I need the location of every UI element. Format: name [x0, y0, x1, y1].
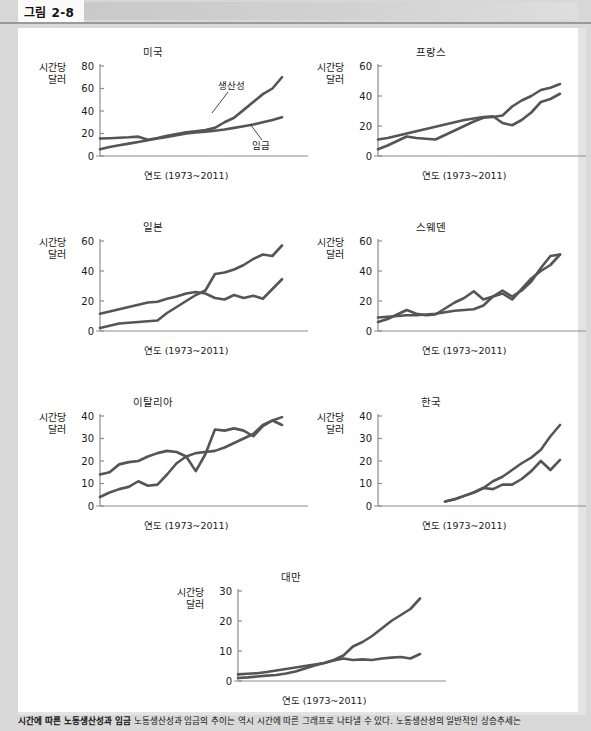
x-axis-label: 연도 (1973~2011) — [80, 343, 292, 357]
y-tick-label: 0 — [366, 151, 372, 162]
y-tick-label: 0 — [366, 326, 372, 337]
y-tick-label: 60 — [81, 83, 94, 94]
x-axis-label: 연도 (1973~2011) — [358, 168, 570, 182]
chart-3: 스웨덴시간당달러0204060연도 (1973~2011) — [300, 219, 562, 367]
series-tag-wage: 임금 — [252, 138, 270, 152]
y-tick-label: 0 — [366, 501, 372, 512]
series-line — [100, 421, 282, 475]
series-line — [378, 255, 560, 323]
y-tick-label: 40 — [359, 91, 372, 102]
y-tick-label: 40 — [81, 266, 94, 277]
plot-area: 0204060 — [100, 241, 312, 337]
plot-area: 010203040 — [378, 416, 590, 512]
x-axis-label: 연도 (1973~2011) — [218, 693, 430, 707]
y-axis-title: 시간당달러 — [22, 62, 66, 85]
y-tick-label: 10 — [359, 478, 372, 489]
series-line — [100, 417, 282, 497]
x-axis-label: 연도 (1973~2011) — [358, 518, 570, 532]
y-axis-title-line1: 시간당 — [160, 587, 204, 599]
x-axis-label: 연도 (1973~2011) — [80, 518, 292, 532]
y-axis-title-line2: 달러 — [300, 424, 344, 436]
chart-0: 미국시간당달러020406080연도 (1973~2011)생산성임금 — [22, 44, 284, 192]
y-axis-title: 시간당달러 — [300, 62, 344, 85]
y-axis-title-line1: 시간당 — [22, 62, 66, 74]
series-line — [378, 94, 560, 140]
y-tick-label: 20 — [81, 456, 94, 467]
y-axis-title-line2: 달러 — [300, 249, 344, 261]
chart-title: 일본 — [22, 219, 284, 234]
caption-heading: 시간에 따른 노동생산성과 임금 — [18, 716, 131, 726]
header-divider — [0, 22, 591, 24]
series-line — [238, 654, 420, 674]
y-tick-label: 60 — [81, 236, 94, 247]
caption-body: 노동생산성과 임금의 추이는 역시 시간에 따른 그래프로 나타낼 수 있다. … — [131, 716, 521, 726]
y-tick-label: 20 — [81, 296, 94, 307]
series-line — [378, 84, 560, 149]
y-tick-label: 60 — [359, 236, 372, 247]
y-tick-label: 40 — [81, 411, 94, 422]
y-tick-label: 30 — [359, 433, 372, 444]
y-axis-title-line1: 시간당 — [300, 237, 344, 249]
y-tick-label: 0 — [88, 326, 94, 337]
y-tick-label: 30 — [219, 586, 232, 597]
plot-area: 0204060 — [378, 66, 590, 162]
y-tick-label: 20 — [81, 128, 94, 139]
y-axis-title-line2: 달러 — [300, 74, 344, 86]
header-gradient-bar — [84, 2, 578, 20]
chart-title: 이탈리아 — [22, 394, 284, 409]
plot-area: 020406080 — [100, 66, 312, 162]
y-tick-label: 20 — [359, 296, 372, 307]
y-tick-label: 10 — [219, 646, 232, 657]
chart-title: 대만 — [160, 569, 422, 584]
plot-area: 0204060 — [378, 241, 590, 337]
y-axis-title-line1: 시간당 — [22, 412, 66, 424]
series-line — [238, 599, 420, 679]
annotation-leader-line — [212, 92, 228, 113]
y-tick-label: 0 — [88, 501, 94, 512]
figure-label: 그림 2-8 — [24, 3, 74, 20]
y-axis-title: 시간당달러 — [300, 237, 344, 260]
y-tick-label: 0 — [226, 676, 232, 687]
y-axis-title: 시간당달러 — [300, 412, 344, 435]
y-tick-label: 10 — [81, 478, 94, 489]
series-line — [100, 246, 282, 329]
x-axis-label: 연도 (1973~2011) — [80, 168, 292, 182]
x-axis-label: 연도 (1973~2011) — [358, 343, 570, 357]
chart-title: 한국 — [300, 394, 562, 409]
figure-page: 그림 2-8 미국시간당달러020406080연도 (1973~2011)생산성… — [0, 0, 591, 731]
chart-6: 대만시간당달러0102030연도 (1973~2011) — [160, 569, 422, 717]
y-tick-label: 40 — [81, 106, 94, 117]
y-tick-label: 40 — [359, 266, 372, 277]
series-line — [378, 255, 560, 318]
y-axis-title-line2: 달러 — [22, 74, 66, 86]
chart-5: 한국시간당달러010203040연도 (1973~2011) — [300, 394, 562, 542]
series-line — [445, 460, 560, 502]
y-tick-label: 80 — [81, 61, 94, 72]
chart-title: 프랑스 — [300, 44, 562, 59]
y-axis-title-line2: 달러 — [22, 249, 66, 261]
figure-caption: 시간에 따른 노동생산성과 임금 노동생산성과 임금의 추이는 역시 시간에 따… — [18, 716, 591, 727]
y-axis-title-line2: 달러 — [22, 424, 66, 436]
chart-title: 스웨덴 — [300, 219, 562, 234]
y-axis-title: 시간당달러 — [160, 587, 204, 610]
y-axis-title: 시간당달러 — [22, 237, 66, 260]
chart-2: 일본시간당달러0204060연도 (1973~2011) — [22, 219, 284, 367]
chart-4: 이탈리아시간당달러010203040연도 (1973~2011) — [22, 394, 284, 542]
chart-1: 프랑스시간당달러0204060연도 (1973~2011) — [300, 44, 562, 192]
y-tick-label: 60 — [359, 61, 372, 72]
y-tick-label: 20 — [219, 616, 232, 627]
y-tick-label: 20 — [359, 121, 372, 132]
chart-title: 미국 — [22, 44, 284, 59]
y-tick-label: 30 — [81, 433, 94, 444]
y-tick-label: 40 — [359, 411, 372, 422]
y-tick-label: 0 — [88, 151, 94, 162]
y-axis-title-line1: 시간당 — [22, 237, 66, 249]
plot-area: 0102030 — [238, 591, 450, 687]
y-tick-label: 20 — [359, 456, 372, 467]
plot-area: 010203040 — [100, 416, 312, 512]
y-axis-title-line1: 시간당 — [300, 412, 344, 424]
series-tag-productivity: 생산성 — [218, 78, 245, 92]
y-axis-title-line2: 달러 — [160, 599, 204, 611]
y-axis-title: 시간당달러 — [22, 412, 66, 435]
y-axis-title-line1: 시간당 — [300, 62, 344, 74]
